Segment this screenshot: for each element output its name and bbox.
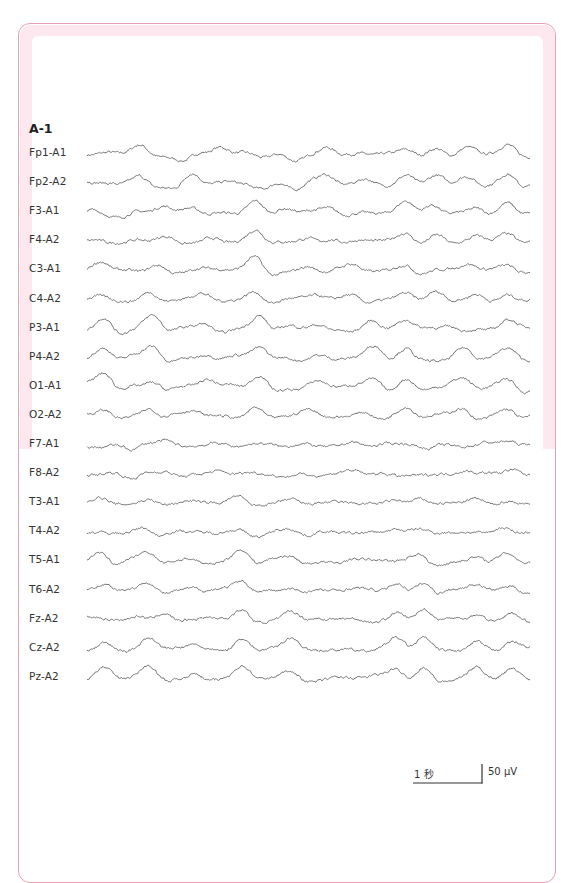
time-scale-label: 1 秒	[414, 766, 434, 781]
amplitude-scale-label: 50 μV	[488, 766, 517, 777]
